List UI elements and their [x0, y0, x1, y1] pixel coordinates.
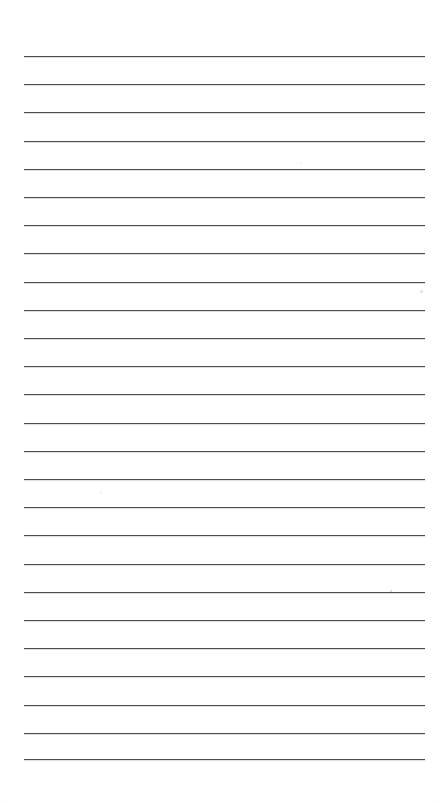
writing-area[interactable] — [24, 56, 425, 759]
ruled-line — [24, 759, 425, 760]
lined-paper-page — [0, 0, 442, 803]
